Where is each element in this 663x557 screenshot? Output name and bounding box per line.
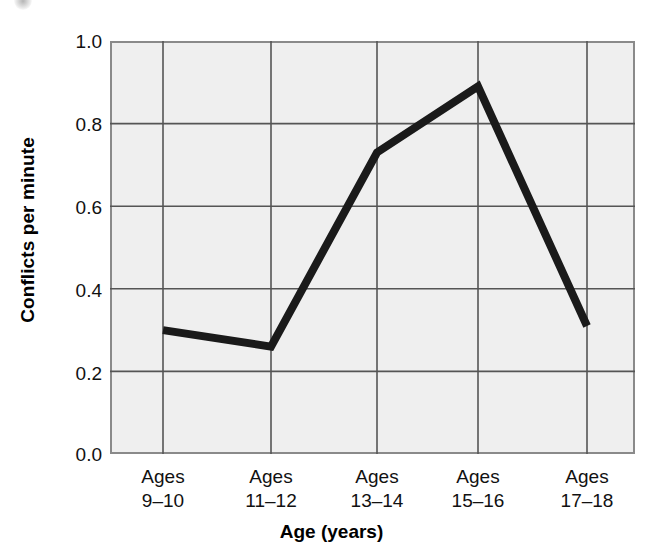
x-tick-label-4-line1: Ages xyxy=(527,465,647,489)
x-tick-label-0-line1: Ages xyxy=(103,465,223,489)
x-tick-label-1-line1: Ages xyxy=(211,465,331,489)
x-tick-label-1-line2: 11–12 xyxy=(211,489,331,513)
y-tick-label-1.0: 1.0 xyxy=(48,32,102,51)
x-tick-label-0-line2: 9–10 xyxy=(103,489,223,513)
y-tick-label-0.0: 0.0 xyxy=(48,445,102,464)
x-tick-label-3-line1: Ages xyxy=(418,465,538,489)
y-axis-title-text: Conflicts per minute xyxy=(17,137,39,323)
x-tick-label-1: Ages 11–12 xyxy=(211,465,331,513)
x-tick-label-3-line2: 15–16 xyxy=(418,489,538,513)
x-tick-label-0: Ages 9–10 xyxy=(103,465,223,513)
x-tick-label-3: Ages 15–16 xyxy=(418,465,538,513)
chart-figure: Conflicts per minute 1.0 0.8 0.6 0.4 0.2… xyxy=(0,0,663,557)
x-tick-label-4: Ages 17–18 xyxy=(527,465,647,513)
y-axis-title: Conflicts per minute xyxy=(6,0,50,460)
chart-canvas xyxy=(110,41,635,454)
y-tick-label-0.4: 0.4 xyxy=(48,281,102,300)
vertical-gridlines xyxy=(163,41,587,454)
y-tick-label-0.2: 0.2 xyxy=(48,364,102,383)
x-tick-label-4-line2: 17–18 xyxy=(527,489,647,513)
y-tick-label-0.8: 0.8 xyxy=(48,115,102,134)
y-tick-label-0.6: 0.6 xyxy=(48,198,102,217)
data-series-line xyxy=(163,86,587,346)
x-axis-title: Age (years) xyxy=(0,521,663,543)
